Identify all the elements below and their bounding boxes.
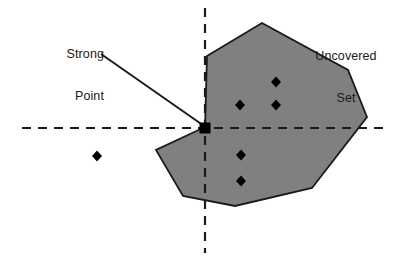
alternative-point-outside-marker [92, 151, 102, 162]
uncovered-set-label-line2: Set [306, 91, 386, 105]
strong-point-label: Strong Point [18, 19, 104, 131]
strong-point-label-line1: Strong [18, 47, 104, 61]
figure-canvas: Strong Point Uncovered Set [0, 0, 406, 275]
uncovered-set-label-line1: Uncovered [306, 49, 386, 63]
strong-point-label-line2: Point [18, 89, 104, 103]
uncovered-set-label: Uncovered Set [306, 21, 386, 133]
strong-point-leader-line [101, 54, 207, 128]
strong-point-marker [200, 123, 211, 134]
